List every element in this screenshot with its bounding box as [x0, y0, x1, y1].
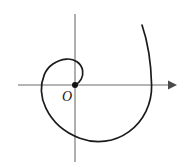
- spiral-curve: [42, 25, 152, 142]
- origin-dot: [72, 82, 78, 88]
- x-axis-arrow-icon: [168, 81, 177, 90]
- figure-canvas: Spiral through origin with coordinate ax…: [0, 0, 188, 166]
- origin-label: O: [62, 89, 72, 104]
- spiral-figure: Spiral through origin with coordinate ax…: [0, 0, 188, 166]
